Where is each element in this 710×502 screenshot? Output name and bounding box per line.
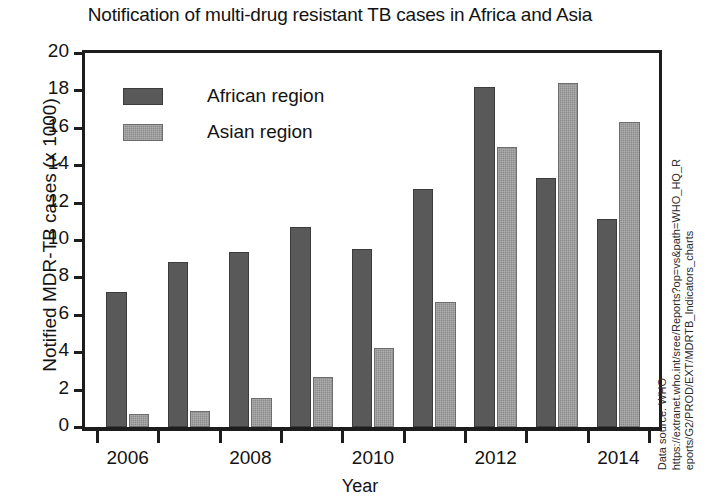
y-tick-label: 0: [58, 414, 69, 436]
x-tick-mark: [464, 427, 467, 443]
x-tick-mark: [587, 427, 590, 443]
x-tick-mark: [280, 427, 283, 443]
x-tick-mark: [525, 427, 528, 443]
y-tick-label: 4: [58, 339, 69, 361]
bar-asian-2007: [190, 411, 210, 427]
x-tick-mark: [341, 427, 344, 443]
x-tick-label: 2010: [352, 447, 394, 469]
source-note: Data source: WHO https://extranet.who.in…: [656, 70, 697, 470]
y-tick-mark: [74, 426, 85, 429]
legend-item-african: African region: [123, 78, 324, 114]
y-tick-mark: [74, 351, 85, 354]
bar-african-2013: [536, 178, 556, 427]
x-tick-label: 2012: [475, 447, 517, 469]
x-tick-mark: [96, 427, 99, 443]
x-tick-mark: [403, 427, 406, 443]
y-tick-label: 8: [58, 264, 69, 286]
legend-swatch-icon: [123, 88, 163, 105]
x-tick-mark: [648, 427, 651, 443]
y-tick-mark: [74, 239, 85, 242]
bar-asian-2012: [497, 147, 517, 428]
bar-asian-2014: [619, 122, 639, 427]
legend-item-asian: Asian region: [123, 114, 324, 150]
x-tick-label: 2006: [107, 447, 149, 469]
bar-african-2008: [229, 252, 249, 427]
x-tick-mark: [219, 427, 222, 443]
y-tick-label: 10: [48, 227, 69, 249]
y-tick-label: 12: [48, 190, 69, 212]
bar-african-2006: [106, 292, 126, 427]
y-tick-label: 16: [48, 115, 69, 137]
bar-asian-2010: [374, 348, 394, 427]
y-tick-mark: [74, 202, 85, 205]
chart-figure: Notification of multi-drug resistant TB …: [0, 0, 710, 502]
legend-label: Asian region: [207, 121, 313, 143]
y-tick-mark: [74, 276, 85, 279]
bar-asian-2011: [435, 302, 455, 427]
bar-african-2014: [597, 219, 617, 427]
bar-african-2009: [290, 227, 310, 427]
y-tick-mark: [74, 52, 85, 55]
legend-swatch-icon: [123, 124, 163, 141]
chart-title: Notification of multi-drug resistant TB …: [0, 4, 680, 26]
bar-asian-2009: [313, 377, 333, 427]
bar-asian-2013: [558, 83, 578, 427]
source-line-2: https://extranet.who.int/sree/Reports?op…: [669, 70, 683, 470]
x-tick-label: 2008: [229, 447, 271, 469]
bar-african-2011: [413, 189, 433, 427]
bar-asian-2006: [129, 414, 149, 427]
y-tick-mark: [74, 389, 85, 392]
bar-asian-2008: [251, 398, 271, 427]
x-tick-mark: [157, 427, 160, 443]
bar-african-2007: [168, 262, 188, 427]
y-tick-label: 18: [48, 77, 69, 99]
legend-label: African region: [207, 85, 324, 107]
y-tick-mark: [74, 127, 85, 130]
y-tick-mark: [74, 314, 85, 317]
chart-legend: African regionAsian region: [123, 78, 324, 150]
y-tick-label: 14: [48, 152, 69, 174]
x-axis-title: Year: [60, 476, 660, 497]
y-tick-label: 6: [58, 302, 69, 324]
y-tick-label: 2: [58, 377, 69, 399]
x-tick-label: 2014: [597, 447, 639, 469]
source-line-1: Data source: WHO: [656, 70, 670, 470]
source-line-3: eports/G2/PROD/EXT/MDRTB_Indicators_char…: [683, 70, 697, 470]
bar-african-2010: [352, 249, 372, 427]
bar-african-2012: [474, 87, 494, 427]
y-tick-mark: [74, 89, 85, 92]
y-tick-mark: [74, 164, 85, 167]
y-tick-label: 20: [48, 40, 69, 62]
